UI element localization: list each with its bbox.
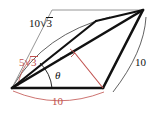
label-diagonal-coefficient: 10 xyxy=(29,18,40,29)
height-segment xyxy=(74,52,103,88)
radical-diagonal: √3 xyxy=(40,17,53,29)
label-angle-theta: θ xyxy=(55,70,60,81)
radical-height: √3 xyxy=(25,56,38,68)
label-diagonal-radicand: 3 xyxy=(46,17,54,29)
measure-arc-right-side xyxy=(113,17,146,92)
label-height-length: 5√3 xyxy=(19,56,38,68)
label-base-bottom: 10 xyxy=(52,96,63,107)
label-diagonal-length: 10√3 xyxy=(29,17,53,29)
geometry-figure: 10√3 5√3 θ 10 10 xyxy=(0,0,156,114)
label-side-right: 10 xyxy=(135,57,146,68)
label-height-radicand: 3 xyxy=(30,56,38,68)
